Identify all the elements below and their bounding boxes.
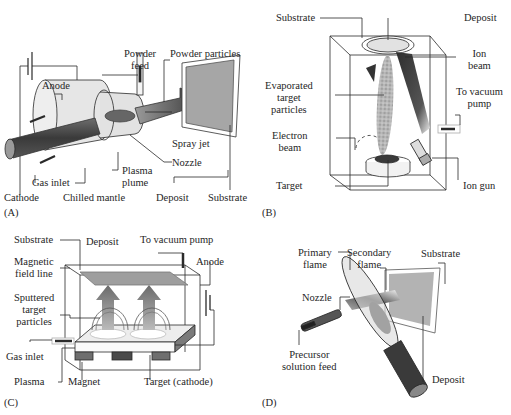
label-anode: Anode <box>42 80 70 92</box>
label-gas-inlet: Gas inlet <box>6 351 44 363</box>
label-deposit: Deposit <box>432 374 465 386</box>
panel-tag-c: (C) <box>4 397 18 408</box>
label-chilled-mantle: Chilled mantle <box>63 192 125 204</box>
label-deposit: Deposit <box>86 236 119 248</box>
label-primary-flame: Primaryflame <box>298 247 332 271</box>
label-magnet: Magnet <box>68 376 100 388</box>
label-anode: Anode <box>196 256 224 268</box>
label-secondary-flame: Secondaryflame <box>347 247 391 271</box>
label-to-vacuum-pump: To vacuum pump <box>140 234 213 246</box>
label-plasma-plume: Plasmaplume <box>122 165 152 189</box>
label-precursor-solution-feed: Precursorsolution feed <box>282 349 337 373</box>
panel-c-drawing <box>30 240 214 382</box>
label-substrate: Substrate <box>421 248 460 260</box>
panel-d-drawing <box>299 251 445 400</box>
panel-tag-d: (D) <box>262 397 277 408</box>
label-deposit: Deposit <box>464 12 497 24</box>
panel-b-drawing <box>320 18 460 190</box>
label-plasma: Plasma <box>14 376 44 388</box>
label-sputtered-target-particles: Sputteredtargetparticles <box>14 292 54 328</box>
label-spray-jet: Spray jet <box>172 138 210 150</box>
label-target: Target <box>276 180 302 192</box>
label-deposit: Deposit <box>156 192 189 204</box>
label-substrate: Substrate <box>276 12 315 24</box>
panel-tag-a: (A) <box>4 207 19 218</box>
label-nozzle: Nozzle <box>302 292 332 304</box>
label-ion-beam: Ionbeam <box>468 48 491 72</box>
label-gas-inlet: Gas inlet <box>32 177 70 189</box>
label-substrate: Substrate <box>14 234 53 246</box>
panel-tag-b: (B) <box>262 207 276 218</box>
figure-drawing <box>0 0 511 415</box>
label-evaporated-particles: Evaporatedtargetparticles <box>265 80 313 116</box>
label-substrate: Substrate <box>208 192 247 204</box>
label-powder-feed: Powderfeed <box>124 48 156 72</box>
label-target-cathode: Target (cathode) <box>144 376 213 388</box>
label-powder-particles: Powder particles <box>170 48 240 60</box>
label-to-vacuum-pump: To vacuumpump <box>456 86 503 110</box>
label-ion-gun: Ion gun <box>463 180 495 192</box>
label-electron-beam: Electronbeam <box>272 130 308 154</box>
label-cathode: Cathode <box>4 192 39 204</box>
label-nozzle: Nozzle <box>172 157 202 169</box>
label-magnetic-field-line: Magneticfield line <box>14 256 54 280</box>
